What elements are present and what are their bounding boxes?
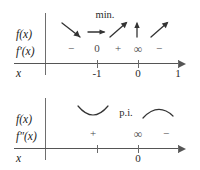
- axis-label-zero: 0: [135, 68, 141, 79]
- decreasing-arrow: [62, 23, 80, 37]
- increasing-arrow-right: [151, 22, 168, 37]
- row-label-x: x: [16, 153, 21, 165]
- vertical-arrow: [134, 22, 139, 37]
- concave-down-arc: [143, 109, 173, 118]
- sign-f-prime-2: 0: [94, 43, 100, 54]
- row-label-fx: f(x): [16, 29, 32, 41]
- axis-tick-minus-one: [97, 145, 98, 153]
- vertical-divider-line: [45, 13, 46, 75]
- sign-f-double-prime-1: +: [90, 128, 96, 139]
- vertical-divider-line: [45, 98, 46, 160]
- axis-label-zero: 0: [135, 153, 141, 164]
- axis-label-minus-one: -1: [92, 68, 101, 79]
- row-label-f-double-prime-x: f″(x): [16, 131, 37, 143]
- first-derivative-sign-chart: f(x) f′(x) x min.: [0, 0, 200, 85]
- x-axis-arrowhead: [178, 145, 186, 153]
- increasing-arrow-left: [110, 22, 127, 37]
- sign-f-prime-5: −: [156, 43, 162, 54]
- annotation-point-of-inflection: p.i.: [119, 108, 132, 119]
- concavity-arc-layer: [0, 85, 200, 170]
- sign-f-prime-3: +: [115, 43, 121, 54]
- concave-up-arc: [78, 106, 108, 115]
- annotation-minimum: min.: [96, 10, 115, 21]
- axis-tick-one: [178, 145, 179, 153]
- sign-f-prime-1: −: [68, 43, 74, 54]
- row-label-fx: f(x): [16, 114, 32, 126]
- row-label-x: x: [16, 68, 21, 80]
- row-label-f-prime-x: f′(x): [16, 46, 34, 58]
- sign-f-prime-4: ∞: [134, 43, 143, 55]
- axis-label-one: 1: [175, 68, 181, 79]
- horizontal-arrow: [88, 29, 106, 34]
- sign-f-double-prime-2: ∞: [134, 128, 143, 140]
- sign-f-double-prime-3: −: [163, 128, 169, 139]
- second-derivative-sign-chart: f(x) f″(x) x p.i. + ∞ − 0: [0, 85, 200, 170]
